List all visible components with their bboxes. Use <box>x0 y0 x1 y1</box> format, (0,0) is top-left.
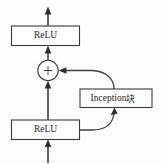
arrowhead-relu-bottom-to-add <box>45 81 52 89</box>
inception-block-label: Inception块 <box>91 92 136 103</box>
arrowhead-relu-bottom-to-inception <box>111 108 118 116</box>
arrowhead-input-to-relu-bottom <box>45 140 52 148</box>
relu-top-label: ReLU <box>34 30 57 40</box>
arrowhead-add-to-relu-top <box>45 46 52 54</box>
arrowhead-inception-to-add <box>59 67 67 74</box>
edge-relu-bottom-to-inception <box>80 114 115 130</box>
inception-label-cjk: 块 <box>126 92 135 103</box>
arrowhead-relu-top-to-output <box>45 7 52 15</box>
relu-bottom-label: ReLU <box>34 124 57 134</box>
inception-label-latin: Inception <box>91 93 127 103</box>
residual-inception-diagram: ReLU Inception块 ReLU <box>0 0 162 164</box>
edge-inception-to-add <box>64 71 114 90</box>
diagram-canvas: ReLU Inception块 ReLU <box>0 0 162 164</box>
